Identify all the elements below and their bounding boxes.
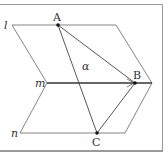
label-alpha: α: [82, 60, 90, 73]
label-m: m: [35, 77, 45, 90]
upper-plane: [12, 25, 152, 83]
lower-plane: [20, 83, 152, 133]
segment-AB: [58, 25, 135, 83]
point-C: [95, 131, 99, 135]
label-n: n: [11, 127, 18, 140]
segment-AC: [58, 25, 97, 133]
label-l: l: [4, 19, 8, 32]
label-B: B: [133, 69, 141, 82]
label-C: C: [92, 136, 100, 149]
geometry-diagram: A B C l m n α: [0, 0, 168, 155]
label-A: A: [52, 11, 62, 24]
